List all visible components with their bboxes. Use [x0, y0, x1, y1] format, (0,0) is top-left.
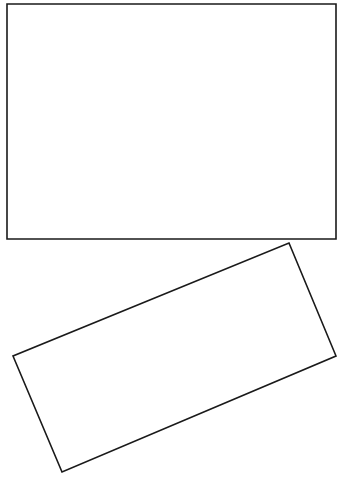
upper-rectangle [7, 4, 336, 239]
shapes-figure [0, 0, 349, 484]
figure-canvas [0, 0, 349, 484]
